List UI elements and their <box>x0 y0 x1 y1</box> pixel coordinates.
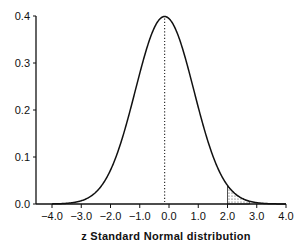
axes: 0.00.10.20.30.4−4.0−3.0−2.0−1.00.01.02.0… <box>15 10 294 222</box>
density-curve <box>52 17 286 204</box>
x-tick-label: −3.0 <box>70 210 92 222</box>
normal-distribution-chart: 0.00.10.20.30.4−4.0−3.0−2.0−1.00.01.02.0… <box>0 0 302 246</box>
plot-area <box>52 17 286 204</box>
x-axis-title: z Standard Normal distribution <box>81 230 251 242</box>
x-tick-label: 2.0 <box>220 210 235 222</box>
x-tick-label: −4.0 <box>41 210 63 222</box>
y-tick-label: 0.2 <box>15 104 30 116</box>
x-tick-label: −1.0 <box>129 210 151 222</box>
x-tick-label: 3.0 <box>249 210 264 222</box>
x-tick-label: 4.0 <box>278 210 293 222</box>
y-tick-label: 0.3 <box>15 57 30 69</box>
x-tick-label: 0.0 <box>161 210 176 222</box>
y-tick-label: 0.1 <box>15 151 30 163</box>
y-tick-label: 0.0 <box>15 198 30 210</box>
shaded-tail-area <box>228 185 250 204</box>
x-tick-label: 1.0 <box>191 210 206 222</box>
x-tick-label: −2.0 <box>100 210 122 222</box>
y-tick-label: 0.4 <box>15 10 30 22</box>
